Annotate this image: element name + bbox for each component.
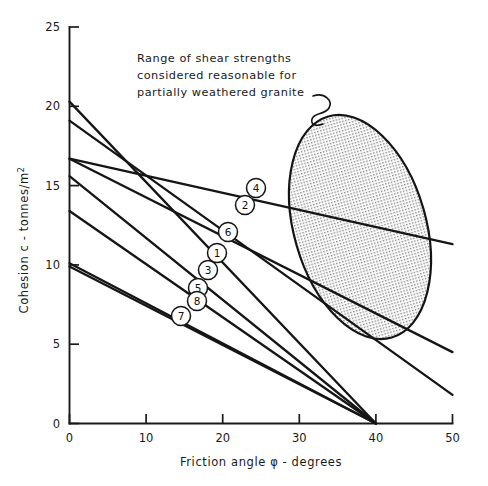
x-tick-label: 0: [66, 431, 73, 445]
chart-canvas: 25 20 15 10 5 0 0 10 20 30 40 50 Frictio…: [0, 0, 488, 486]
series-marker-2[interactable]: 2: [236, 196, 255, 215]
series-marker-4[interactable]: 4: [247, 179, 266, 198]
marker-label-6: 6: [225, 226, 232, 238]
svg-text:Cohesion c - tonnes/m2: Cohesion c - tonnes/m2: [17, 167, 31, 314]
marker-label-3: 3: [205, 264, 212, 276]
marker-label-7: 7: [178, 310, 185, 322]
x-tick-label: 40: [369, 431, 384, 445]
annotation-shaded-region-note: Range of shear strengths considered reas…: [137, 52, 304, 99]
y-tick-label: 10: [45, 258, 60, 272]
annotation-line: Range of shear strengths: [137, 52, 292, 65]
x-tick-label: 20: [215, 431, 230, 445]
marker-label-8: 8: [194, 295, 201, 307]
shaded-region-partially-weathered-granite: [265, 98, 455, 355]
y-axis-title-main: Cohesion c - tonnes/m: [17, 172, 31, 313]
x-tick-label: 10: [139, 431, 154, 445]
y-axis: [70, 27, 80, 424]
x-axis: [70, 414, 453, 424]
annotation-line: partially weathered granite: [137, 86, 304, 99]
marker-label-4: 4: [253, 182, 260, 194]
y-axis-title: Cohesion c - tonnes/m2: [17, 167, 31, 314]
y-tick-labels: 25 20 15 10 5 0: [45, 20, 60, 431]
y-tick-label: 20: [45, 99, 60, 113]
annotation-line: considered reasonable for: [137, 69, 297, 82]
series-marker-7[interactable]: 7: [172, 307, 191, 326]
chart-figure: 25 20 15 10 5 0 0 10 20 30 40 50 Frictio…: [0, 0, 488, 486]
y-tick-label: 25: [45, 20, 60, 34]
marker-label-2: 2: [242, 199, 249, 211]
series-marker-3[interactable]: 3: [199, 261, 218, 280]
y-tick-label: 5: [53, 337, 60, 351]
x-tick-label: 50: [445, 431, 460, 445]
series-marker-6[interactable]: 6: [219, 223, 238, 242]
series-marker-1[interactable]: 1: [208, 244, 227, 263]
marker-label-1: 1: [214, 247, 221, 259]
y-axis-title-superscript: 2: [17, 167, 26, 173]
x-tick-labels: 0 10 20 30 40 50: [66, 431, 460, 445]
y-tick-label: 15: [45, 179, 60, 193]
series-marker-8[interactable]: 8: [188, 292, 207, 311]
x-tick-label: 30: [292, 431, 307, 445]
y-tick-label: 0: [53, 417, 60, 431]
x-axis-title: Friction angle φ - degrees: [180, 455, 342, 469]
